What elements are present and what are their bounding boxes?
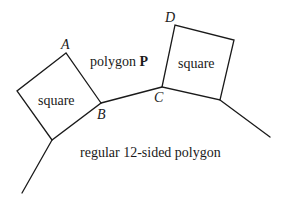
dodecagon-label: regular 12-sided polygon [80,145,221,160]
vertex-label-c: C [154,90,164,105]
vertex-label-a: A [60,37,70,52]
edge-right [220,100,270,137]
polygon-p-label: polygon P [90,54,148,69]
left-square-label: square [38,93,75,108]
vertex-label-b: B [97,107,106,122]
edge-lower-left [22,140,52,193]
vertex-label-d: D [164,10,175,25]
right-square-label: square [178,56,215,71]
edge-bc [101,87,162,103]
polygon-p-prefix: polygon [90,54,139,69]
polygon-p-name: P [139,54,148,69]
geometry-diagram: A B C D square square polygon P regular … [0,0,282,203]
